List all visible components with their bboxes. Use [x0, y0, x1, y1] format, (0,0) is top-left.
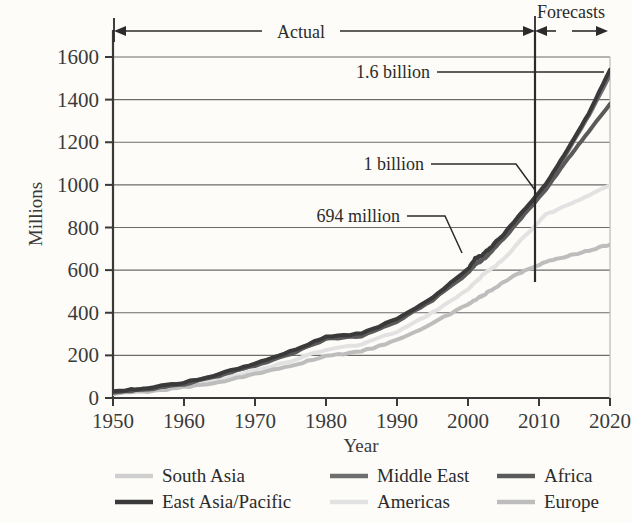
y-tick-label-600: 600 [68, 258, 100, 282]
actual-span-label: Actual [277, 22, 325, 42]
x-tick-label-2010: 2010 [518, 409, 560, 433]
x-tick-label-1990: 1990 [376, 409, 418, 433]
x-tick-label-1980: 1980 [305, 409, 347, 433]
chart-svg: 02004006008001000120014001600 1950196019… [0, 0, 632, 523]
x-tick-label-1950: 1950 [92, 409, 134, 433]
y-tick-label-1000: 1000 [57, 173, 99, 197]
y-tick-label-1200: 1200 [57, 130, 99, 154]
x-tick-label-2020: 2020 [589, 409, 631, 433]
x-tick-label-2000: 2000 [447, 409, 489, 433]
annotation-694-million-label: 694 million [316, 206, 400, 226]
forecasts-span-label: Forecasts [537, 2, 605, 22]
legend-label-east-asia-pacific: East Asia/Pacific [162, 491, 291, 512]
x-axis-title: Year [343, 435, 379, 456]
annotation-1-6-billion-label: 1.6 billion [356, 62, 430, 82]
y-tick-label-0: 0 [89, 386, 100, 410]
legend-label-south-asia: South Asia [162, 465, 245, 486]
y-tick-label-1400: 1400 [57, 88, 99, 112]
annotation-1-billion-label: 1 billion [363, 154, 424, 174]
y-tick-label-400: 400 [68, 301, 100, 325]
chart-figure: 02004006008001000120014001600 1950196019… [0, 0, 632, 523]
y-axis-title: Millions [25, 182, 46, 246]
y-tick-label-800: 800 [68, 216, 100, 240]
y-tick-label-200: 200 [68, 343, 100, 367]
y-tick-label-1600: 1600 [57, 45, 99, 69]
legend-label-americas: Americas [377, 491, 450, 512]
legend-label-africa: Africa [544, 465, 593, 486]
x-tick-label-1960: 1960 [163, 409, 205, 433]
legend-label-middle-east: Middle East [377, 465, 470, 486]
x-tick-label-1970: 1970 [234, 409, 276, 433]
legend-label-europe: Europe [544, 491, 599, 512]
